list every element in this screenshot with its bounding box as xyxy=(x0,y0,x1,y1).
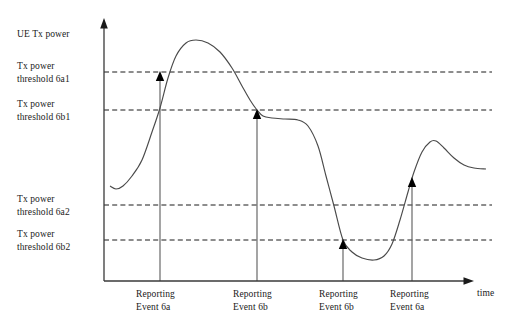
tx-power-curve xyxy=(110,40,486,260)
event-label-line1: Reporting xyxy=(233,288,272,301)
event-arrowheads-group xyxy=(156,71,416,249)
figure-canvas: UE Tx power Tx powerthreshold 6a1Tx powe… xyxy=(0,0,507,324)
threshold-label-6b2: Tx powerthreshold 6b2 xyxy=(17,228,70,254)
threshold-label-line1: Tx power xyxy=(17,60,70,73)
threshold-label-line1: Tx power xyxy=(17,228,70,241)
event-label-line2: Event 6b xyxy=(233,301,272,314)
threshold-label-line2: threshold 6a1 xyxy=(17,73,70,86)
event-label-line2: Event 6b xyxy=(319,301,358,314)
event-label-line1: Reporting xyxy=(390,288,429,301)
threshold-label-line2: threshold 6b2 xyxy=(17,241,70,254)
x-axis-arrowhead xyxy=(464,277,475,285)
y-axis xyxy=(100,18,108,281)
threshold-label-6a1: Tx powerthreshold 6a1 xyxy=(17,60,70,86)
event-label-line1: Reporting xyxy=(136,288,175,301)
event-label-4: ReportingEvent 6a xyxy=(390,288,429,313)
y-axis-title: UE Tx power xyxy=(17,28,70,41)
threshold-label-line2: threshold 6a2 xyxy=(17,206,70,219)
threshold-label-line2: threshold 6b1 xyxy=(17,111,70,124)
event-label-line1: Reporting xyxy=(319,288,358,301)
event-arrowhead-4 xyxy=(408,177,416,187)
event-label-line2: Event 6a xyxy=(390,301,429,314)
y-axis-arrowhead xyxy=(100,18,108,29)
threshold-lines-group xyxy=(104,72,492,240)
x-axis-title: time xyxy=(477,287,494,299)
threshold-label-6a2: Tx powerthreshold 6a2 xyxy=(17,193,70,219)
event-label-1: ReportingEvent 6a xyxy=(136,288,175,313)
tx-power-diagram xyxy=(0,0,507,324)
threshold-label-line1: Tx power xyxy=(17,98,70,111)
event-label-line2: Event 6a xyxy=(136,301,175,314)
event-label-3: ReportingEvent 6b xyxy=(319,288,358,313)
event-label-2: ReportingEvent 6b xyxy=(233,288,272,313)
threshold-label-line1: Tx power xyxy=(17,193,70,206)
threshold-label-6b1: Tx powerthreshold 6b1 xyxy=(17,98,70,124)
